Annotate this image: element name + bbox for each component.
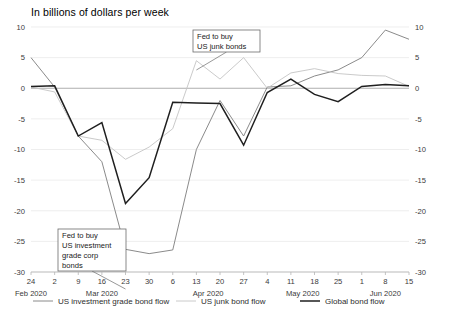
x-axis-tick-label: 8 [383, 277, 387, 286]
y-axis-tick-label-right: 0 [415, 84, 419, 93]
x-axis-tick-label: 11 [287, 277, 295, 286]
x-axis-month-label: Feb 2020 [15, 289, 47, 298]
x-axis-tick-label: 9 [76, 277, 80, 286]
x-axis-tick-label: 15 [405, 277, 413, 286]
y-axis-tick-label-left: -5 [18, 115, 25, 124]
legend-label-0: US investment grade bond flow [58, 297, 169, 306]
axis-ticks [31, 272, 409, 275]
x-axis-tick-label: 24 [27, 277, 35, 286]
x-axis-tick-label: 16 [98, 277, 106, 286]
x-axis-tick-label: 2 [53, 277, 57, 286]
y-axis-tick-label-left: -25 [14, 237, 25, 246]
y-axis-tick-label-left: -10 [14, 145, 25, 154]
annotation-text-line: Fed to buy [197, 32, 233, 41]
x-axis-tick-label: 27 [239, 277, 247, 286]
legend-label-2: Global bond flow [325, 297, 385, 306]
x-axis-tick-label: 20 [216, 277, 224, 286]
y-axis-labels-left: 1050-5-10-15-20-25-30 [14, 23, 25, 277]
x-axis-tick-label: 25 [334, 277, 342, 286]
x-axis-tick-label: 18 [310, 277, 318, 286]
annotation-text-line: US investment [62, 241, 112, 250]
annotation-text-line: bonds [62, 261, 83, 270]
y-axis-tick-label-left: -30 [14, 268, 25, 277]
y-axis-tick-label-left: 5 [21, 53, 25, 62]
y-axis-tick-label-right: 10 [415, 23, 423, 32]
x-axis-tick-label: 1 [360, 277, 364, 286]
x-axis-tick-label: 13 [192, 277, 200, 286]
series-line-1 [31, 58, 409, 160]
annotation-text-line: grade corp [62, 251, 98, 260]
x-axis-tick-label: 30 [145, 277, 153, 286]
y-axis-tick-label-right: -30 [415, 268, 426, 277]
x-axis-labels: 2429162330613202741118251815 [27, 277, 413, 286]
x-axis-tick-label: 23 [121, 277, 129, 286]
data-series [31, 30, 409, 254]
x-axis-tick-label: 4 [265, 277, 269, 286]
y-axis-tick-label-right: 5 [415, 53, 419, 62]
series-line-2 [31, 79, 409, 203]
y-axis-tick-label-left: -15 [14, 176, 25, 185]
x-axis-month-label: May 2020 [286, 289, 319, 298]
y-axis-tick-label-right: -10 [415, 145, 426, 154]
y-axis-tick-label-left: -20 [14, 207, 25, 216]
chart-annotations: Fed to buyUS junk bondsFed to buyUS inve… [58, 30, 260, 289]
series-line-0 [31, 30, 409, 254]
y-axis-tick-label-right: -5 [415, 115, 422, 124]
annotation-leader-line [196, 52, 226, 70]
y-axis-tick-label-right: -20 [415, 207, 426, 216]
y-axis-tick-label-left: 10 [17, 23, 25, 32]
y-axis-tick-label-right: -25 [415, 237, 426, 246]
y-axis-tick-label-right: -15 [415, 176, 426, 185]
legend-label-1: US junk bond flow [201, 297, 266, 306]
chart-container: In billions of dollars per week 1050-5-1… [0, 0, 455, 319]
y-axis-labels-right: 1050-5-10-15-20-25-30 [415, 23, 426, 277]
annotation-text-line: Fed to buy [62, 231, 98, 240]
chart-legend: US investment grade bond flowUS junk bon… [33, 297, 385, 306]
chart-plot: 1050-5-10-15-20-25-30 1050-5-10-15-20-25… [0, 0, 455, 319]
y-axis-tick-label-left: 0 [21, 84, 25, 93]
x-axis-tick-label: 6 [171, 277, 175, 286]
annotation-text-line: US junk bonds [197, 42, 247, 51]
